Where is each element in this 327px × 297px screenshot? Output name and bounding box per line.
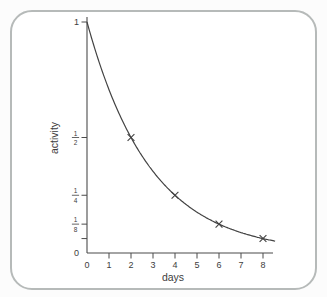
x-tick-label: 3 (150, 260, 155, 270)
x-axis-label: days (162, 271, 184, 283)
x-tick-label: 7 (238, 260, 243, 270)
x-tick-label: 0 (84, 260, 89, 270)
x-tick-label: 8 (260, 260, 265, 270)
x-ticks: 012345678 (84, 253, 265, 270)
data-point-markers (128, 134, 267, 242)
y-tick-label: 14 (72, 187, 79, 203)
svg-text:1: 1 (74, 216, 78, 223)
data-point-marker (172, 192, 179, 199)
svg-text:2: 2 (74, 139, 78, 146)
x-tick-label: 5 (194, 260, 199, 270)
data-point-marker (216, 221, 223, 228)
svg-text:4: 4 (74, 197, 78, 204)
svg-text:1: 1 (74, 187, 78, 194)
x-tick-label: 1 (106, 260, 111, 270)
svg-text:8: 8 (74, 226, 78, 233)
svg-text:1: 1 (74, 130, 78, 137)
x-tick-label: 6 (216, 260, 221, 270)
y-tick-label: 1 (74, 17, 79, 27)
data-point-marker (128, 134, 135, 141)
y-tick-label: 12 (72, 130, 79, 146)
decay-chart: 11214180 012345678 days activity (0, 0, 327, 297)
decay-curve (87, 22, 275, 241)
y-ticks: 11214180 (72, 17, 87, 258)
x-tick-label: 4 (172, 260, 177, 270)
y-tick-label: 0 (74, 248, 79, 258)
x-tick-label: 2 (128, 260, 133, 270)
y-axis-label: activity (48, 121, 60, 154)
y-tick-label: 18 (72, 216, 79, 232)
